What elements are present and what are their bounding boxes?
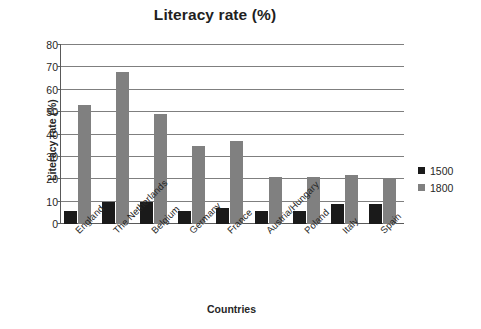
bar-group bbox=[328, 45, 366, 224]
bar-group bbox=[61, 45, 99, 224]
y-axis-label-50: 50 bbox=[36, 106, 58, 118]
bar-1800-the-netherlands bbox=[116, 72, 129, 224]
bar-group bbox=[99, 45, 137, 224]
bar-1800-belgium bbox=[154, 114, 167, 224]
bar-1500-the-netherlands bbox=[102, 202, 115, 224]
bar-1800-england bbox=[78, 105, 91, 224]
bar-group bbox=[213, 45, 251, 224]
bar-1500-italy bbox=[331, 204, 344, 224]
y-axis-label-40: 40 bbox=[36, 129, 58, 141]
legend-label-1500: 1500 bbox=[430, 165, 453, 177]
bar-1500-germany bbox=[178, 211, 191, 224]
plot-area bbox=[60, 45, 404, 224]
y-axis-label-60: 60 bbox=[36, 84, 58, 96]
legend-entry-1500: 1500 bbox=[418, 162, 478, 179]
bar-1500-spain bbox=[369, 204, 382, 224]
x-axis-title: Countries bbox=[60, 303, 403, 315]
literacy-rate-bar-chart: Literacy rate (%) Literacy rate (%) 0102… bbox=[0, 0, 481, 329]
legend-entry-1800: 1800 bbox=[418, 179, 478, 196]
chart-title: Literacy rate (%) bbox=[0, 6, 430, 24]
bar-group bbox=[366, 45, 404, 224]
y-axis-label-80: 80 bbox=[36, 39, 58, 51]
y-axis-label-10: 10 bbox=[36, 196, 58, 208]
legend-label-1800: 1800 bbox=[430, 182, 453, 194]
bar-group bbox=[252, 45, 290, 224]
y-axis-label-20: 20 bbox=[36, 173, 58, 185]
y-axis-label-30: 30 bbox=[36, 151, 58, 163]
bar-1500-england bbox=[64, 211, 77, 224]
legend-swatch-icon-1800 bbox=[418, 184, 425, 191]
bar-group bbox=[175, 45, 213, 224]
y-axis-label-0: 0 bbox=[36, 218, 58, 230]
legend-swatch-icon-1500 bbox=[418, 167, 425, 174]
chart-legend: 15001800 bbox=[418, 162, 478, 196]
y-axis-label-70: 70 bbox=[36, 61, 58, 73]
bar-1500-austria-hungary bbox=[255, 211, 268, 224]
